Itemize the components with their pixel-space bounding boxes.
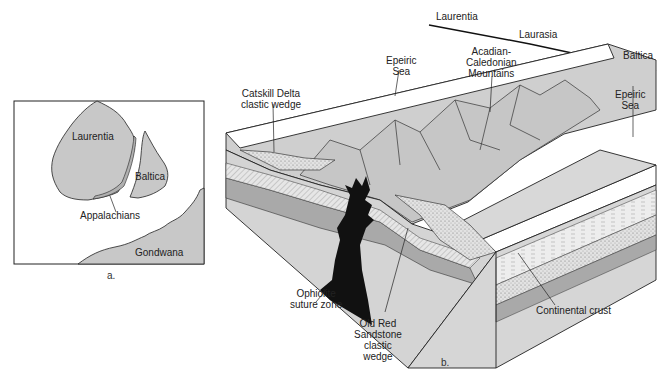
label-catskill-delta: Catskill Delta clastic wedge [241,88,301,110]
label-ophiolite-suture-zone: Ophiolite suture zone [290,288,342,310]
caption-b: b. [441,357,449,368]
panel-a-map [14,101,204,264]
label-acadian-caledonian-mountains: Acadian- Caledonian Mountains [466,46,517,79]
diagram-canvas [0,0,671,382]
label-old-red-sandstone: Old Red Sandstone clastic wedge [354,318,402,362]
label-epeiric-sea-right: Epeiric Sea [615,89,646,111]
panel-b-block [226,25,656,368]
label-appalachians: Appalachians [80,210,140,221]
label-gondwana: Gondwana [135,247,183,258]
label-baltica-a: Baltica [135,171,165,182]
label-laurentia-a: Laurentia [72,131,114,142]
label-continental-crust: Continental crust [536,305,611,316]
caption-a: a. [107,270,115,281]
label-laurasia: Laurasia [519,29,557,40]
label-laurentia-b: Laurentia [436,11,478,22]
label-epeiric-sea-left: Epeiric Sea [386,55,417,77]
label-baltica-b: Baltica [623,50,653,61]
